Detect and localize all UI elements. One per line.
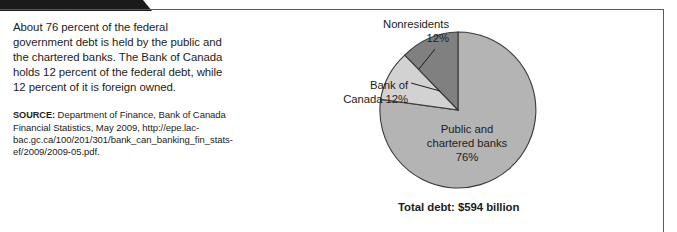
pie-label-public-and-chartered-banks: Public and chartered banks 76% xyxy=(402,122,532,165)
frame-right-border xyxy=(663,9,664,232)
pie-chart: Nonresidents 12% Bank of Canada 12% Publ… xyxy=(290,12,650,222)
total-debt-caption: Total debt: $594 billion xyxy=(398,201,519,213)
body-paragraph: About 76 percent of the federal governme… xyxy=(13,20,228,95)
source-note: SOURCE: Department of Finance, Bank of C… xyxy=(13,109,228,158)
figure-container: About 76 percent of the federal governme… xyxy=(0,0,677,232)
pie-label-bank-of-canada: Bank of Canada 12% xyxy=(296,78,408,106)
source-label: SOURCE: xyxy=(13,110,55,120)
text-column: About 76 percent of the federal governme… xyxy=(13,20,228,159)
frame-top-border xyxy=(0,9,664,10)
pie-label-nonresidents: Nonresidents 12% xyxy=(331,17,449,45)
